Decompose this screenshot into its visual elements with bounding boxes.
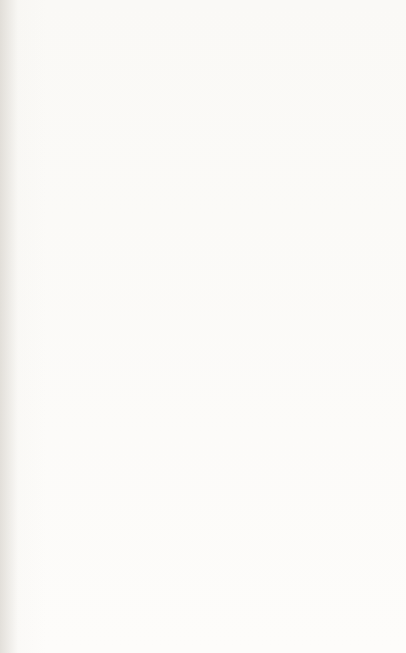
node-line: of worth of actions xyxy=(48,77,59,177)
node-hierarchy-of-energy-goals: Hierarchy of Energy Goals xyxy=(292,399,350,503)
node-line: Assessing Attainment of xyxy=(316,272,327,367)
edge-measures-to-determination xyxy=(44,317,45,335)
node-line: Impacts of xyxy=(40,351,51,423)
node-line: Measures for Assessing xyxy=(29,351,40,423)
node-line: Policy Action xyxy=(50,218,61,301)
node-line: or sets of actions) xyxy=(59,77,70,177)
arrowhead-determination-to-scoring-actions xyxy=(41,184,47,190)
node-line: of xyxy=(316,430,327,472)
arrowhead-requirements-to-catalogue xyxy=(76,513,82,519)
node-line: Each Societal and Energy Goal xyxy=(326,272,337,367)
node-multicriterion-scoring-actions: Multicriterion Scoring System (aggregati… xyxy=(14,71,82,183)
node-line: of Achievement of Goals xyxy=(326,76,337,178)
arrowhead-energy-goals-to-criteria xyxy=(317,377,323,383)
edge-determination-to-scoring-actions xyxy=(44,189,45,207)
node-measures-for-assessing-impacts: Measures for Assessing Impacts of Each P… xyxy=(14,335,76,439)
node-line: Multicriterion Scoring System xyxy=(295,76,306,178)
node-line: (Aggregative Rules for Evaluation xyxy=(305,76,326,178)
node-line: Each Measure For Each xyxy=(40,218,51,301)
node-line: of xyxy=(316,557,327,601)
edge-requirements-up-dashed xyxy=(100,386,147,387)
node-line: (aggregative rules for evaluation xyxy=(37,77,48,177)
figure-stage: Figure 4.1: Outline for Formulating Ener… xyxy=(0,0,406,653)
node-hierarchy-of-societal-goals: Hierarchy of Societal Goals xyxy=(292,527,350,631)
node-line: Hierarchy xyxy=(305,430,316,472)
node-line: and Its Relevant Measure(s) xyxy=(276,339,287,428)
node-line: Energy Goals xyxy=(326,430,337,472)
node-line: Each Policy Action xyxy=(50,351,61,423)
edge-catalogue-to-measures xyxy=(44,445,45,463)
edge-societal-to-energy-goals xyxy=(320,510,321,527)
ray-from-determination xyxy=(259,442,289,567)
edge-requirements-to-catalogue-dashed xyxy=(100,386,101,515)
arrowhead-measures-to-determination xyxy=(41,312,47,318)
node-line: Possible Policy xyxy=(40,491,51,538)
node-line: and Energy Services xyxy=(184,350,195,423)
arrowhead-societal-goals-dashed xyxy=(286,577,292,583)
arrowhead-criteria-to-scoring-goals xyxy=(317,185,323,191)
arrowhead-societal-goals-to-requirements xyxy=(175,441,181,447)
edge-energy-goals-to-criteria xyxy=(320,382,321,399)
node-line: Criteria and Measures for xyxy=(305,272,316,367)
node-multicriterion-scoring-goals: Multicriterion Scoring System (Aggregati… xyxy=(288,71,354,183)
ray-from-catalogue xyxy=(162,442,288,525)
node-line: Requirements for xyxy=(163,350,174,423)
node-line: Actions xyxy=(50,491,61,538)
node-line: Societal Goals xyxy=(326,557,337,601)
node-line: Determination of Values of xyxy=(29,218,40,301)
node-line: or sets of Goals) xyxy=(337,76,348,178)
arrowhead-catalogue-to-measures xyxy=(41,440,47,446)
node-criteria-and-measures: Criteria and Measures for Assessing Atta… xyxy=(292,265,350,375)
node-line: Energy-related Services xyxy=(174,350,185,423)
node-catalogue-of-possible-policy-actions: “Catalogue” of Possible Policy Actions xyxy=(14,463,76,567)
node-determination-of-values: Determination of Values of Each Measure … xyxy=(14,207,76,311)
node-line: “Catalogue” of xyxy=(29,491,40,538)
node-line: Multicriterion Scoring System xyxy=(27,77,38,177)
edge-criteria-to-scoring-goals xyxy=(320,190,321,265)
node-requirements-for-energy-services: Requirements for Energy-related Services… xyxy=(147,335,211,439)
node-line: Relating Each Policy Action xyxy=(266,339,277,428)
